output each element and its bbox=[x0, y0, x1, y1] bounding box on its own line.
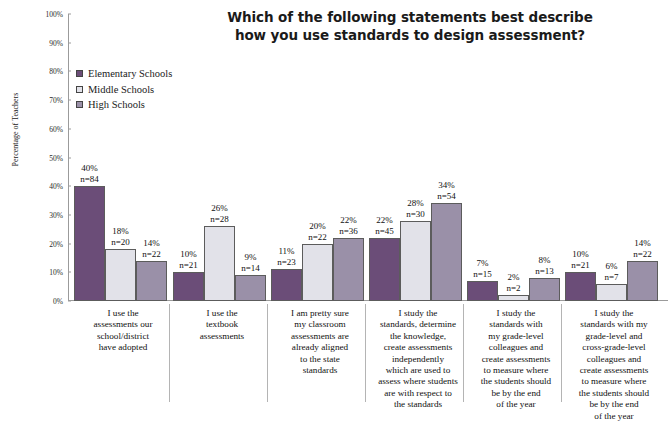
bar-value-label: 14%n=22 bbox=[633, 238, 652, 260]
bar[interactable]: 22%n=36 bbox=[333, 238, 364, 301]
category-label-line: my grade-level bbox=[466, 331, 566, 342]
bar[interactable]: 34%n=54 bbox=[431, 203, 462, 301]
bar-count-label: n=2 bbox=[506, 283, 520, 294]
bar[interactable]: 14%n=22 bbox=[136, 261, 167, 301]
bar[interactable]: 8%n=13 bbox=[529, 278, 560, 301]
bar-value-label: 22%n=36 bbox=[339, 215, 358, 237]
bar-value-label: 40%n=84 bbox=[80, 163, 99, 185]
bar[interactable]: 40%n=84 bbox=[74, 186, 105, 301]
bar[interactable]: 18%n=20 bbox=[105, 249, 136, 301]
bar-group: 10%n=216%n=714%n=22 bbox=[565, 14, 658, 301]
plot-area: 0%10%20%30%40%50%60%70%80%90%100% 40%n=8… bbox=[68, 14, 666, 301]
bar-percent-label: 10% bbox=[179, 249, 198, 260]
bar-count-label: n=30 bbox=[406, 209, 425, 220]
bar-count-label: n=20 bbox=[111, 237, 130, 248]
category-label-line: assess where students bbox=[368, 376, 468, 387]
bar-value-label: 26%n=28 bbox=[210, 203, 229, 225]
bar[interactable]: 10%n=21 bbox=[565, 272, 596, 301]
bar-group: 10%n=2126%n=289%n=14 bbox=[173, 14, 266, 301]
bar-percent-label: 40% bbox=[80, 163, 99, 174]
category-label-line: textbook bbox=[172, 319, 272, 330]
y-tick-mark bbox=[68, 128, 71, 129]
category-label-line: my classroom bbox=[270, 319, 370, 330]
bar[interactable]: 9%n=14 bbox=[235, 275, 266, 301]
category-label-line: standards with bbox=[466, 319, 566, 330]
y-tick-label: 70% bbox=[49, 96, 68, 105]
bar-count-label: n=15 bbox=[473, 269, 492, 280]
category-label: I study thestandards withmy grade-levelc… bbox=[466, 302, 566, 429]
y-tick-mark bbox=[68, 14, 71, 15]
bar-percent-label: 8% bbox=[535, 255, 554, 266]
bar-count-label: n=22 bbox=[308, 232, 327, 243]
bar-percent-label: 11% bbox=[277, 246, 296, 257]
bar-group: 7%n=152%n=28%n=13 bbox=[467, 14, 560, 301]
y-tick-label: 100% bbox=[46, 10, 69, 19]
y-tick-mark bbox=[68, 186, 71, 187]
category-label-line: be by the end bbox=[466, 388, 566, 399]
bar[interactable]: 28%n=30 bbox=[400, 221, 431, 301]
category-label-line: I study the bbox=[466, 308, 566, 319]
category-label-line: school/district bbox=[73, 331, 173, 342]
y-tick-label: 0% bbox=[53, 297, 68, 306]
category-label: I use theassessments ourschool/districth… bbox=[73, 302, 173, 429]
y-tick-mark bbox=[68, 243, 71, 244]
bar[interactable]: 11%n=23 bbox=[271, 269, 302, 301]
category-label-line: create assessments bbox=[466, 354, 566, 365]
y-tick-label: 30% bbox=[49, 210, 68, 219]
category-label: I study thestandards with mygrade-level … bbox=[564, 302, 664, 429]
bar-value-label: 6%n=7 bbox=[604, 261, 618, 283]
category-label-line: to measure where bbox=[564, 376, 664, 387]
category-label-line: have adopted bbox=[73, 342, 173, 353]
bar[interactable]: 26%n=28 bbox=[204, 226, 235, 301]
category-label-line: the students should bbox=[564, 388, 664, 399]
y-tick-label: 40% bbox=[49, 182, 68, 191]
bar[interactable]: 7%n=15 bbox=[467, 281, 498, 301]
legend-swatch-icon bbox=[76, 101, 83, 108]
category-label-line: I am pretty sure bbox=[270, 308, 370, 319]
legend-item-high-schools[interactable]: High Schools bbox=[76, 97, 172, 113]
bar[interactable]: 20%n=22 bbox=[302, 244, 333, 301]
bar[interactable]: 22%n=45 bbox=[369, 238, 400, 301]
category-label-line: I study the bbox=[564, 308, 664, 319]
bar-percent-label: 28% bbox=[406, 198, 425, 209]
category-label-line: independently bbox=[368, 354, 468, 365]
category-label-line: be by the end bbox=[564, 399, 664, 410]
legend-swatch-icon bbox=[76, 86, 83, 93]
bar-count-label: n=23 bbox=[277, 257, 296, 268]
category-label-line: I use the bbox=[73, 308, 173, 319]
bar-percent-label: 18% bbox=[111, 226, 130, 237]
bar[interactable]: 10%n=21 bbox=[173, 272, 204, 301]
bar-count-label: n=28 bbox=[210, 214, 229, 225]
category-label-line: create assessments bbox=[564, 365, 664, 376]
bar-percent-label: 10% bbox=[571, 249, 590, 260]
legend-item-middle-schools[interactable]: Middle Schools bbox=[76, 82, 172, 98]
bar-percent-label: 14% bbox=[633, 238, 652, 249]
category-label-line: are with respect to bbox=[368, 388, 468, 399]
category-label-line: standards with my bbox=[564, 319, 664, 330]
bar[interactable]: 6%n=7 bbox=[596, 284, 627, 301]
y-tick-mark bbox=[68, 214, 71, 215]
legend-item-label: Middle Schools bbox=[88, 82, 154, 98]
bar-group: 11%n=2320%n=2222%n=36 bbox=[271, 14, 364, 301]
y-tick-mark bbox=[68, 272, 71, 273]
legend-item-elementary-schools[interactable]: Elementary Schools bbox=[76, 66, 172, 82]
category-label-line: create assessments bbox=[368, 342, 468, 353]
legend-item-label: Elementary Schools bbox=[88, 66, 172, 82]
category-label-line: the standards bbox=[368, 399, 468, 410]
bar-value-label: 11%n=23 bbox=[277, 246, 296, 268]
bar-percent-label: 22% bbox=[375, 215, 394, 226]
bar[interactable]: 2%n=2 bbox=[498, 295, 529, 301]
bar-percent-label: 20% bbox=[308, 221, 327, 232]
bar-value-label: 8%n=13 bbox=[535, 255, 554, 277]
category-label-line: standards bbox=[270, 365, 370, 376]
bar-group: 22%n=4528%n=3034%n=54 bbox=[369, 14, 462, 301]
bar-count-label: n=54 bbox=[437, 191, 456, 202]
bar-count-label: n=84 bbox=[80, 174, 99, 185]
bar-count-label: n=14 bbox=[241, 263, 260, 274]
category-label-line: assessments our bbox=[73, 319, 173, 330]
bar[interactable]: 14%n=22 bbox=[627, 261, 658, 301]
category-label-line: assessments bbox=[172, 331, 272, 342]
bar-percent-label: 7% bbox=[473, 258, 492, 269]
category-label: I am pretty suremy classroomassessments … bbox=[270, 302, 370, 429]
bar-percent-label: 6% bbox=[604, 261, 618, 272]
